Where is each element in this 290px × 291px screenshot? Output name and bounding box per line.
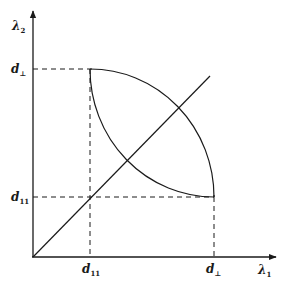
- y-tick-high: d⊥: [11, 62, 26, 78]
- x-tick-high: d⊥: [206, 262, 221, 278]
- diagonal-line: [33, 76, 210, 257]
- eigenvalue-diagram: λ2 λ1 d⊥ d11 d11 d⊥: [0, 0, 290, 291]
- y-axis-label: λ2: [11, 19, 25, 35]
- x-tick-low: d11: [82, 262, 100, 278]
- x-axis-label: λ1: [257, 263, 271, 279]
- upper-arc: [90, 69, 214, 197]
- lower-arc: [90, 69, 214, 197]
- y-tick-low: d11: [11, 190, 29, 206]
